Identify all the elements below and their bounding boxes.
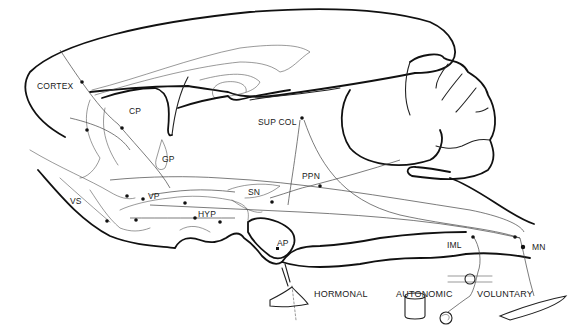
cortex-outline bbox=[25, 9, 455, 137]
label-mn: MN bbox=[532, 243, 546, 252]
cortex-descending-pathway bbox=[60, 50, 170, 188]
hormonal-target-icon bbox=[270, 287, 308, 307]
label-vp: VP bbox=[148, 192, 160, 201]
label-ppn: PPN bbox=[302, 172, 320, 181]
label-sup-col: SUP COL bbox=[258, 118, 297, 127]
autonomic-target-loop-icon bbox=[440, 312, 452, 324]
brain-diagram: CORTEX CP GP VS VP HYP SN SUP COL PPN AP… bbox=[0, 0, 576, 331]
label-vs: VS bbox=[70, 197, 82, 206]
label-voluntary: VOLUNTARY bbox=[477, 290, 533, 299]
label-ap: AP bbox=[277, 239, 289, 248]
brain-outline-drawing bbox=[0, 0, 576, 331]
label-sn: SN bbox=[248, 188, 260, 197]
muscle-icon bbox=[500, 296, 566, 320]
label-iml: IML bbox=[447, 241, 462, 250]
label-gp: GP bbox=[162, 155, 175, 164]
label-cortex: CORTEX bbox=[37, 82, 73, 91]
label-cp: CP bbox=[129, 107, 141, 116]
label-hyp: HYP bbox=[198, 210, 216, 219]
label-autonomic: AUTONOMIC bbox=[396, 290, 453, 299]
label-hormonal: HORMONAL bbox=[314, 290, 368, 299]
tectum-outline bbox=[342, 90, 442, 165]
